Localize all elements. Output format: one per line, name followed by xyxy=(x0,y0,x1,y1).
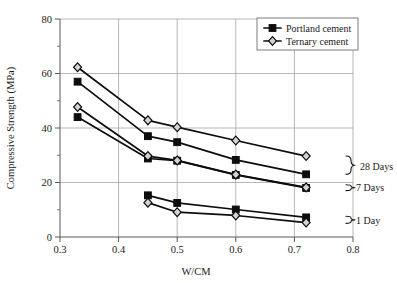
legend-label: Ternary cement xyxy=(286,36,349,47)
age-annotation-label: 1 Day xyxy=(356,215,380,226)
x-tick-label: 0.8 xyxy=(346,244,359,255)
y-tick-label: 60 xyxy=(42,68,53,79)
x-tick-label: 0.5 xyxy=(171,244,184,255)
x-tick-label: 0.4 xyxy=(112,244,126,255)
y-tick-label: 20 xyxy=(42,177,53,188)
marker-square xyxy=(232,156,239,163)
age-annotation-label: 28 Days xyxy=(360,161,393,172)
marker-square xyxy=(145,133,152,140)
y-tick-label: 40 xyxy=(42,123,53,134)
chart-legend: Portland cementTernary cement xyxy=(257,18,358,50)
marker-square xyxy=(74,114,81,121)
x-tick-label: 0.7 xyxy=(288,244,301,255)
x-axis-title: W/CM xyxy=(181,266,211,277)
y-tick-label: 80 xyxy=(42,14,53,25)
y-tick-label: 0 xyxy=(47,232,52,243)
marker-square xyxy=(174,139,181,146)
legend-label: Portland cement xyxy=(286,23,351,34)
age-annotation-label: 7 Days xyxy=(356,182,384,193)
compressive-strength-line-chart: 0204060800.30.40.50.60.70.8 28 Days7 Day… xyxy=(0,0,397,283)
marker-square xyxy=(74,78,81,85)
legend-marker-square xyxy=(269,25,276,32)
chart-figure: 0204060800.30.40.50.60.70.8 28 Days7 Day… xyxy=(0,0,397,283)
x-tick-label: 0.6 xyxy=(229,244,242,255)
x-tick-label: 0.3 xyxy=(53,244,66,255)
marker-square xyxy=(303,171,310,178)
marker-square xyxy=(174,200,181,207)
y-axis-title: Compressive Strength (MPa) xyxy=(5,66,17,189)
